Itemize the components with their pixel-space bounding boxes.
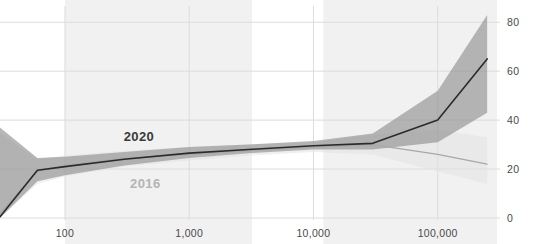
x-axis-tick-1000: 1,000	[149, 228, 229, 239]
y-axis-tick-80: 80	[507, 17, 519, 28]
x-axis-tick-100: 100	[25, 228, 105, 239]
line-chart-plot	[0, 0, 537, 244]
x-axis-tick-10000: 10,000	[273, 228, 353, 239]
series-annotation-2016: 2016	[130, 177, 161, 190]
background-band-0	[65, 0, 252, 244]
series-annotation-2020: 2020	[124, 130, 155, 143]
y-axis-tick-40: 40	[507, 115, 519, 126]
y-axis-tick-20: 20	[507, 164, 519, 175]
y-axis-tick-0: 0	[507, 213, 513, 224]
chart-container: 0 20 40 60 80 100 1,000 10,000 100,000 2…	[0, 0, 537, 244]
x-axis-tick-100000: 100,000	[398, 228, 478, 239]
y-axis-tick-60: 60	[507, 66, 519, 77]
